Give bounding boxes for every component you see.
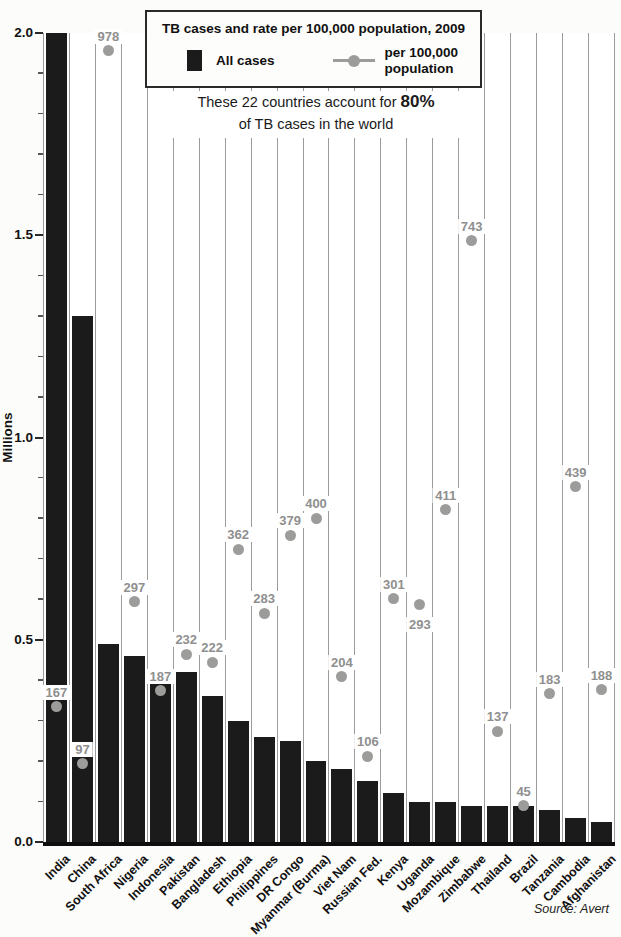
rate-value-label: 183 (536, 672, 564, 687)
country-column: 167 (43, 33, 69, 842)
chart-annotation: These 22 countries account for 80% of TB… (150, 91, 482, 138)
y-tick-label: 0.0 (0, 833, 33, 851)
country-column: 232 (173, 33, 199, 842)
country-column: 188 (588, 33, 615, 842)
all-cases-swatch-icon (187, 50, 202, 71)
country-column: 183 (536, 33, 562, 842)
rate-dot (336, 671, 347, 682)
annotation-text: These 22 countries account for (197, 94, 400, 110)
y-major-tick (35, 234, 43, 236)
rate-value-label: 97 (72, 742, 92, 757)
source-note: Source: Avert (534, 902, 609, 916)
legend-item-all-cases: All cases (187, 50, 275, 71)
rate-dot (596, 684, 607, 695)
rate-dot (311, 513, 322, 524)
y-minor-tick (38, 679, 43, 681)
rate-dot (466, 235, 477, 246)
rate-dot (129, 596, 140, 607)
annotation-highlight: 80% (401, 92, 435, 111)
all-cases-bar (280, 741, 301, 842)
rate-dot (570, 481, 581, 492)
rate-value-label: 293 (406, 617, 434, 632)
y-minor-tick (38, 801, 43, 803)
rate-value-label: 204 (328, 655, 356, 670)
country-column: 379 (277, 33, 303, 842)
all-cases-bar (124, 656, 145, 842)
y-tick-label: 0.5 (0, 631, 33, 649)
country-column: 45 (510, 33, 536, 842)
country-column: 204 (328, 33, 354, 842)
country-column: 411 (432, 33, 458, 842)
rate-value-label: 283 (250, 591, 278, 606)
rate-dot (544, 688, 555, 699)
y-minor-tick (38, 720, 43, 722)
rate-value-label: 411 (432, 488, 459, 503)
y-minor-tick (38, 194, 43, 196)
country-column: 187 (147, 33, 173, 842)
rate-value-label: 978 (95, 29, 123, 44)
rate-value-label: 379 (276, 513, 304, 528)
country-column: 362 (225, 33, 251, 842)
legend-all-cases-label: All cases (216, 53, 275, 68)
y-minor-tick (38, 517, 43, 519)
rate-dot (233, 544, 244, 555)
all-cases-bar (254, 737, 275, 842)
y-major-tick (35, 32, 43, 34)
country-column: 106 (354, 33, 380, 842)
all-cases-bar (565, 818, 586, 842)
country-column: 400 (303, 33, 329, 842)
rate-dot (155, 685, 166, 696)
legend-item-rate: per 100,000 population (333, 45, 477, 76)
y-minor-tick (38, 598, 43, 600)
rate-value-label: 400 (302, 496, 330, 511)
all-cases-bar (46, 33, 67, 842)
y-minor-tick (38, 315, 43, 317)
legend-box: TB cases and rate per 100,000 population… (145, 10, 482, 88)
all-cases-bar (487, 806, 508, 842)
rate-dot (440, 504, 451, 515)
y-minor-tick (38, 477, 43, 479)
y-tick-label: 2.0 (0, 24, 33, 42)
country-column: 301 (380, 33, 406, 842)
rate-value-label: 232 (172, 632, 200, 647)
rate-value-label: 137 (484, 709, 512, 724)
y-minor-tick (38, 396, 43, 398)
rate-value-label: 188 (588, 668, 616, 683)
rate-value-label: 167 (43, 685, 71, 700)
legend-title: TB cases and rate per 100,000 population… (147, 12, 480, 36)
all-cases-bar (539, 810, 560, 842)
rate-marker-icon (333, 55, 375, 67)
all-cases-bar (591, 822, 612, 842)
all-cases-bar (176, 672, 197, 842)
all-cases-bar (98, 644, 119, 842)
y-tick-label: 1.5 (0, 226, 33, 244)
y-minor-tick (38, 356, 43, 358)
y-major-tick (35, 639, 43, 641)
y-major-tick (35, 841, 43, 843)
rate-value-label: 106 (354, 734, 382, 749)
country-column: 137 (484, 33, 510, 842)
y-minor-tick (38, 275, 43, 277)
rate-value-label: 301 (380, 577, 408, 592)
rate-value-label: 222 (198, 640, 226, 655)
y-minor-tick (38, 760, 43, 762)
rate-dot (388, 593, 399, 604)
rate-dot (181, 649, 192, 660)
country-column: 97 (69, 33, 95, 842)
country-column: 283 (251, 33, 277, 842)
country-column: 978 (95, 33, 121, 842)
rate-dot (285, 530, 296, 541)
legend-items: All cases per 100,000 population (147, 45, 480, 76)
rate-dot (259, 608, 270, 619)
country-column: 222 (199, 33, 225, 842)
y-major-tick (35, 437, 43, 439)
all-cases-bar (435, 802, 456, 842)
legend-rate-label: per 100,000 population (385, 45, 477, 76)
annotation-line2: of TB cases in the world (239, 116, 393, 132)
rate-dot (362, 751, 373, 762)
rate-value-label: 187 (146, 669, 174, 684)
rate-value-label: 297 (120, 580, 148, 595)
y-minor-tick (38, 72, 43, 74)
all-cases-bar (383, 793, 404, 842)
rate-dot (492, 726, 503, 737)
